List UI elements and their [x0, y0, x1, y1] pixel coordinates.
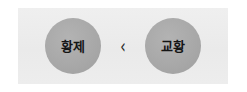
node-circle-left[interactable]: 황제	[45, 18, 101, 74]
figure-panel: 황제 ‹ 교황	[18, 8, 228, 84]
node-circle-right[interactable]: 교황	[145, 18, 201, 74]
node-label-left: 황제	[61, 40, 85, 53]
comparison-row: 황제 ‹ 교황	[18, 8, 228, 84]
less-than-chevron-icon: ‹	[107, 37, 139, 56]
comparison-figure: 황제 ‹ 교황	[0, 0, 247, 92]
node-label-right: 교황	[161, 40, 185, 53]
